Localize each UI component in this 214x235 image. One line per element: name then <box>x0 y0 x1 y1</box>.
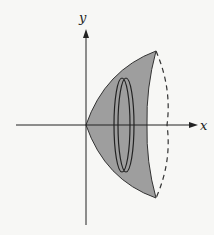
diagram-canvas: x y <box>0 0 214 235</box>
x-axis-label: x <box>200 118 208 133</box>
y-axis-arrow-icon <box>83 29 89 38</box>
x-axis-arrow-icon <box>189 122 198 128</box>
y-axis-label: y <box>78 10 87 25</box>
